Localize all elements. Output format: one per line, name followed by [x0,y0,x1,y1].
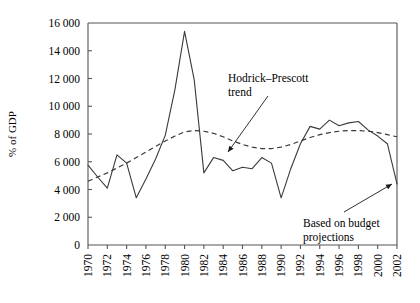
x-axis-tick-label: 1986 [237,254,249,277]
y-axis-tick-label: 8 000 [54,128,80,140]
x-axis-tick-label: 1990 [275,254,287,277]
x-axis-tick-label: 1982 [198,254,210,277]
annotation-label-line2-based-on-budget-projections: projections [303,231,355,244]
chart-figure: 16 00014 00012 00010 0008 0006 0004 0002… [0,0,420,303]
x-axis-tick-label: 1972 [101,254,113,277]
chart-plot-svg: 16 00014 00012 00010 0008 0006 0004 0002… [0,0,420,303]
y-axis-tick-label: 16 000 [48,17,80,29]
annotation-leader-based-on-budget-projections [344,184,392,212]
annotation-label-hodrick-prescott-trend: Hodrick–Prescott [228,72,309,84]
x-axis-tick-labels: 1970197219741976197819801982198419861988… [82,245,403,277]
x-axis-tick-label: 1998 [352,254,364,277]
annotation-label-line2-hodrick-prescott-trend: trend [228,86,252,98]
y-axis-tick-label: 10 000 [48,100,80,112]
chart-annotations: Hodrick–PrescotttrendBased on budgetproj… [228,72,392,244]
x-axis-tick-label: 1994 [314,254,326,277]
x-axis-tick-label: 1988 [256,254,268,277]
x-axis-tick-label: 1980 [179,254,191,277]
y-axis-tick-label: 0 [74,239,80,251]
x-axis-tick-label: 1976 [140,254,152,277]
chart-series-lines [88,31,397,198]
x-axis-tick-label: 1992 [294,254,306,277]
x-axis-tick-label: 1978 [159,254,171,277]
series-line-actual [88,31,397,198]
annotation-label-based-on-budget-projections: Based on budget [303,217,380,230]
x-axis-tick-label: 1996 [333,254,345,277]
x-axis-tick-label: 2000 [372,254,384,277]
y-axis-tick-labels: 16 00014 00012 00010 0008 0006 0004 0002… [48,17,92,251]
x-axis-tick-label: 1970 [82,254,94,277]
y-axis-title-text: % of GDP [6,111,18,157]
y-axis-tick-label: 4 000 [54,184,80,196]
x-axis-tick-label: 1974 [121,254,133,277]
x-axis-tick-label: 2002 [391,254,403,277]
x-axis-tick-label: 1984 [217,254,229,277]
y-axis-tick-label: 14 000 [48,45,80,57]
series-line-trend [88,131,397,182]
chart-axes [88,23,397,245]
y-axis-tick-label: 2 000 [54,211,80,223]
y-axis-title: % of GDP [6,111,18,157]
annotation-arrowhead-hodrick-prescott-trend [228,146,234,152]
annotation-arrowhead-based-on-budget-projections [386,184,392,189]
y-axis-tick-label: 6 000 [54,156,80,168]
annotation-leader-hodrick-prescott-trend [228,96,268,152]
y-axis-tick-label: 12 000 [48,73,80,85]
